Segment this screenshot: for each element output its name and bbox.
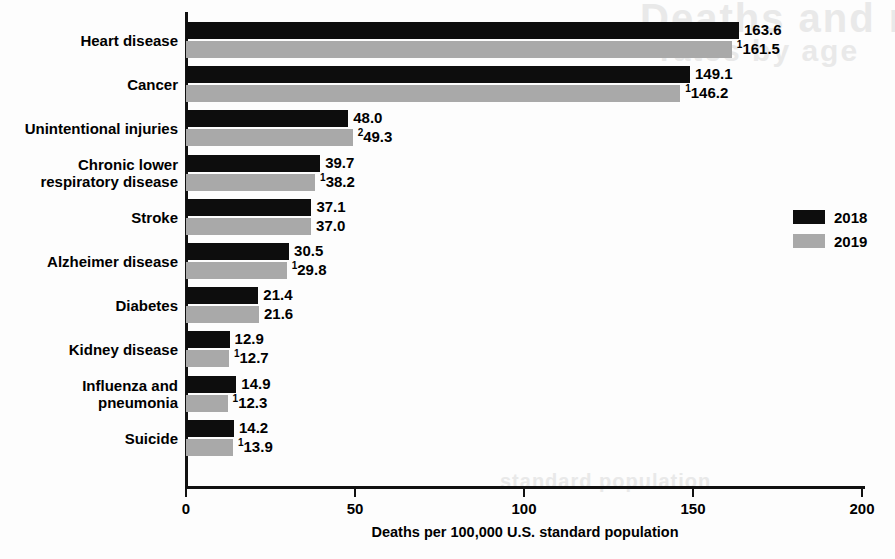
bar-value-label: 21.4 <box>263 286 292 303</box>
bar-2018 <box>186 420 234 437</box>
category-label: Alzheimer disease <box>47 253 178 270</box>
bar-value-label: 149.1 <box>695 65 733 82</box>
footnote-marker: 1 <box>292 260 298 271</box>
bar-value-label: 21.6 <box>264 305 293 322</box>
scan-bleed-text: standard population <box>500 470 711 493</box>
bar-value-label: 249.3 <box>358 128 393 145</box>
legend-item: 2018 <box>793 207 867 227</box>
bar-value-label: 37.1 <box>316 198 345 215</box>
footnote-marker: 1 <box>234 348 240 359</box>
bar-value-label: 129.8 <box>292 261 327 278</box>
bar-value-label: 1161.5 <box>737 40 780 57</box>
footnote-marker: 1 <box>685 83 691 94</box>
footnote-marker: 2 <box>358 127 364 138</box>
footnote-marker: 1 <box>233 393 239 404</box>
legend-label: 2018 <box>834 209 867 226</box>
bar-value-label: 112.7 <box>234 349 269 366</box>
bar-2019 <box>186 395 228 412</box>
x-axis-title: Deaths per 100,000 U.S. standard populat… <box>185 524 865 540</box>
footnote-marker: 1 <box>320 172 326 183</box>
bar-2018 <box>186 110 348 127</box>
x-tick <box>861 489 863 497</box>
bar-value-label: 113.9 <box>238 438 273 455</box>
bar-value-label: 39.7 <box>325 154 354 171</box>
x-tick-label: 0 <box>182 500 190 517</box>
category-label: Cancer <box>127 76 178 93</box>
bar-2018 <box>186 22 739 39</box>
bar-value-label: 1146.2 <box>685 84 728 101</box>
bar-2019 <box>186 306 259 323</box>
bar-value-label: 14.2 <box>239 419 268 436</box>
x-tick <box>692 489 694 497</box>
x-tick-label: 150 <box>680 500 705 517</box>
x-tick <box>354 489 356 497</box>
category-label: Heart disease <box>80 32 178 49</box>
x-tick <box>185 489 187 497</box>
legend-label: 2019 <box>834 233 867 250</box>
bar-value-label: 14.9 <box>241 375 270 392</box>
x-axis-line <box>185 486 865 489</box>
legend-swatch <box>793 234 825 248</box>
bar-value-label: 12.9 <box>235 330 264 347</box>
bar-value-label: 163.6 <box>744 21 782 38</box>
category-label: Chronic lower respiratory disease <box>40 156 178 190</box>
chart-legend: 20182019 <box>793 207 867 255</box>
bar-2019 <box>186 174 315 191</box>
category-label: Unintentional injuries <box>25 120 178 137</box>
bar-2019 <box>186 129 353 146</box>
bar-value-label: 30.5 <box>294 242 323 259</box>
x-tick <box>523 489 525 497</box>
footnote-marker: 1 <box>737 39 743 50</box>
legend-swatch <box>793 210 825 224</box>
category-label: Influenza and pneumonia <box>82 377 178 411</box>
category-label: Stroke <box>131 208 178 225</box>
bar-2019 <box>186 262 287 279</box>
bar-value-label: 138.2 <box>320 173 355 190</box>
bar-2019 <box>186 350 229 367</box>
bar-2018 <box>186 376 236 393</box>
bar-2018 <box>186 199 311 216</box>
x-tick-label: 100 <box>511 500 536 517</box>
bar-2018 <box>186 243 289 260</box>
footnote-marker: 1 <box>238 437 244 448</box>
x-tick-label: 50 <box>347 500 364 517</box>
bar-2019 <box>186 218 311 235</box>
bar-value-label: 37.0 <box>316 217 345 234</box>
bar-2019 <box>186 439 233 456</box>
bar-chart: Deaths and mortality rates by age standa… <box>0 0 895 559</box>
legend-item: 2019 <box>793 231 867 251</box>
bar-2018 <box>186 155 320 172</box>
bar-2019 <box>186 85 680 102</box>
bar-2018 <box>186 287 258 304</box>
bar-2018 <box>186 331 230 348</box>
bar-value-label: 48.0 <box>353 109 382 126</box>
category-label: Suicide <box>125 429 178 446</box>
x-tick-label: 200 <box>849 500 874 517</box>
category-label: Diabetes <box>115 297 178 314</box>
bar-2019 <box>186 41 732 58</box>
category-label: Kidney disease <box>69 341 178 358</box>
bar-2018 <box>186 66 690 83</box>
bar-value-label: 112.3 <box>233 394 268 411</box>
